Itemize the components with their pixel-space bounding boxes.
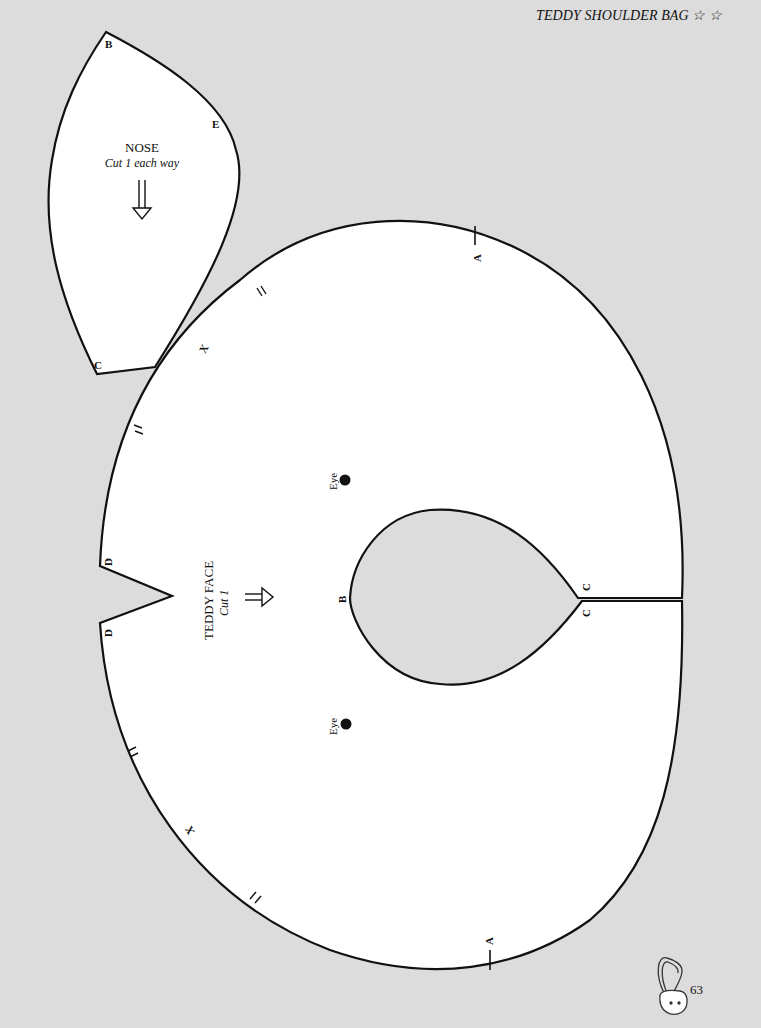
nose-point-c: C bbox=[94, 359, 102, 371]
page-number: 63 bbox=[690, 982, 703, 998]
nose-instruction: Cut 1 each way bbox=[105, 156, 180, 170]
face-point-a-bottom: A bbox=[483, 937, 495, 945]
nose-point-b: B bbox=[105, 38, 113, 50]
eye-marker-bottom bbox=[341, 719, 352, 730]
nose-point-e: E bbox=[212, 118, 219, 130]
eye-label-top: Eye bbox=[327, 473, 339, 490]
face-point-d-top: D bbox=[102, 558, 114, 566]
nose-title: NOSE bbox=[125, 140, 159, 155]
face-outline bbox=[100, 221, 683, 969]
face-title: TEDDY FACE bbox=[201, 561, 216, 640]
eye-label-bottom: Eye bbox=[327, 718, 339, 735]
face-point-c-bottom: C bbox=[580, 609, 592, 617]
face-point-b: B bbox=[336, 595, 348, 603]
pattern-drawing: B E C NOSE Cut 1 each way bbox=[0, 0, 761, 1028]
face-instruction: Cut 1 bbox=[217, 590, 231, 616]
face-point-d-bottom: D bbox=[102, 629, 114, 637]
teddy-bag-icon bbox=[658, 958, 687, 1015]
face-pattern-piece: A A X X D D B C C Eye Eye TEDDY FACE Cut… bbox=[100, 221, 683, 970]
face-point-a-top: A bbox=[471, 254, 483, 262]
pattern-page: TEDDY SHOULDER BAG ☆ ☆ B E C NOSE Cut 1 … bbox=[0, 0, 761, 1028]
face-point-c-top: C bbox=[580, 583, 592, 591]
eye-marker-top bbox=[340, 475, 351, 486]
